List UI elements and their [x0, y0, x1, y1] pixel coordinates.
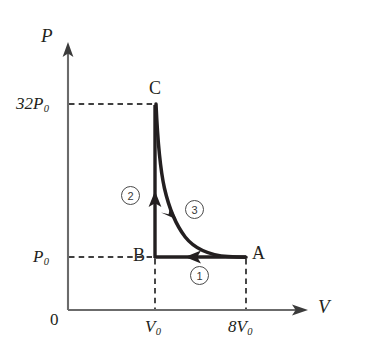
process-3-path-group: [156, 104, 246, 257]
pv-diagram-canvas: [0, 0, 365, 360]
process-marker-3-text: 3: [191, 204, 197, 216]
point-label-a: A: [252, 244, 265, 262]
axes-group: [63, 42, 308, 316]
process-2-path-group: [149, 105, 162, 258]
y-tick-label-p0: P0: [33, 248, 49, 267]
y-tick-p0-sub: 0: [43, 256, 49, 267]
y-tick-label-32p0: 32P0: [16, 95, 49, 114]
point-label-b: B: [133, 246, 145, 264]
x-tick-label-v0: V0: [145, 318, 161, 337]
x-axis-label: V: [318, 297, 330, 316]
x-tick-v0-main: V: [145, 317, 155, 336]
x-tick-label-8v0: 8V0: [228, 318, 252, 337]
process-marker-2-text: 2: [127, 190, 133, 202]
y-tick-p0-main: P: [33, 247, 43, 266]
origin-label: 0: [50, 311, 59, 328]
process-marker-1: 1: [190, 266, 209, 285]
x-tick-8v0-main: 8V: [228, 317, 247, 336]
x-tick-v0-sub: 0: [155, 326, 161, 337]
x-tick-8v0-sub: 0: [247, 326, 253, 337]
process-marker-2: 2: [121, 186, 140, 205]
process-marker-3: 3: [185, 200, 204, 219]
pv-diagram-figure: P V 0 32P0 P0 V0 8V0 C B A 2 3 1: [0, 0, 365, 360]
process-marker-1-text: 1: [196, 270, 202, 282]
y-tick-32p0-sub: 0: [43, 103, 49, 114]
process-3-isotherm-curve: [156, 104, 246, 257]
y-axis-label: P: [41, 26, 53, 45]
point-label-c: C: [149, 79, 161, 97]
y-tick-32p0-main: 32P: [16, 94, 43, 113]
